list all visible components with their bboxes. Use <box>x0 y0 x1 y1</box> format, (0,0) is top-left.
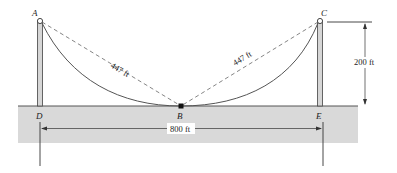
arrow-up-icon <box>363 23 367 29</box>
label-b: B <box>177 111 183 121</box>
pulley-c-icon <box>317 18 322 23</box>
height-label: 200 ft <box>354 57 375 67</box>
chord-right-length: 447 ft <box>231 48 254 67</box>
label-a: A <box>31 8 38 18</box>
pole-right <box>317 18 322 106</box>
point-b-marker <box>179 104 184 109</box>
cable-diagram: A C B D E 447 ft 447 ft 200 ft 800 ft <box>0 0 397 173</box>
label-e: E <box>315 111 322 121</box>
arrow-down-icon <box>363 99 367 105</box>
pulley-a-icon <box>37 18 42 23</box>
chord-left-length: 447 ft <box>109 60 132 79</box>
label-c: C <box>321 8 328 18</box>
pole-left <box>37 18 42 106</box>
label-d: D <box>35 111 43 121</box>
span-label: 800 ft <box>170 124 191 134</box>
